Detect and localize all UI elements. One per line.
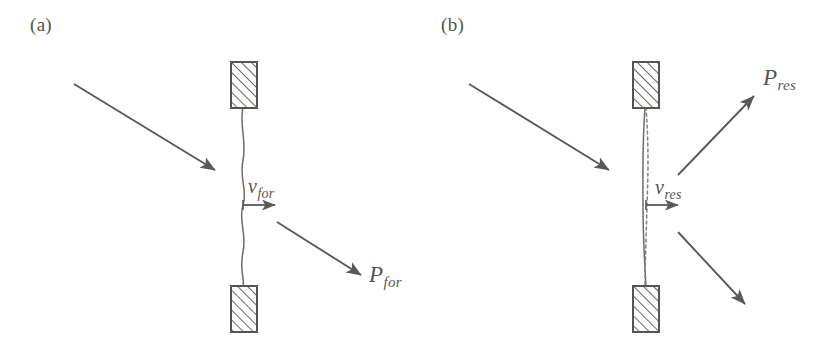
panel-b-outgoing-arrow-upper	[678, 96, 754, 175]
velocity-resonant-label: vres	[655, 177, 682, 202]
power-forced-subscript: for	[384, 274, 402, 290]
velocity-forced-label: vfor	[248, 176, 274, 201]
panel-b-bottom-clamp	[633, 286, 659, 332]
power-forced-label: Pfor	[369, 263, 402, 290]
panel-a-string-wavy	[241, 107, 244, 287]
panel-b-top-clamp	[633, 62, 659, 108]
panel-b-label: (b)	[441, 14, 464, 36]
power-forced-symbol: P	[369, 262, 383, 287]
power-resonant-label: Pres	[763, 66, 796, 93]
panel-a-top-clamp	[231, 62, 257, 108]
velocity-resonant-symbol: v	[655, 176, 664, 198]
panel-b-group	[469, 62, 754, 332]
power-resonant-subscript: res	[778, 77, 796, 93]
velocity-forced-subscript: for	[257, 186, 274, 201]
velocity-forced-symbol: v	[248, 175, 257, 197]
panel-b-incoming-arrow	[469, 84, 609, 170]
panel-a-bottom-clamp	[231, 286, 257, 332]
figure-root: (a) (b) vfor Pfor vres Pres	[0, 0, 827, 339]
panel-a-outgoing-arrow	[277, 222, 361, 275]
panel-a-label: (a)	[30, 14, 52, 36]
power-resonant-symbol: P	[763, 65, 777, 90]
panel-a-group	[74, 62, 361, 332]
panel-a-incoming-arrow	[74, 84, 215, 170]
panel-b-string-dashed-mode	[645, 107, 648, 287]
diagram-canvas	[0, 0, 827, 339]
velocity-resonant-subscript: res	[664, 187, 681, 202]
panel-b-outgoing-arrow-lower	[678, 232, 745, 304]
